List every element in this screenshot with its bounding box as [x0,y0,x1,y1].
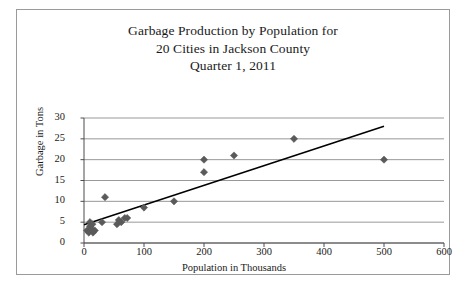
data-point-marker [200,169,207,176]
trend-line [84,126,384,224]
x-axis-title: Population in Thousands [17,262,451,273]
data-point-marker [290,135,297,142]
x-axis-tick-label: 0 [64,246,104,257]
scatter-plot-canvas [17,10,451,276]
x-axis-tick-label: 100 [124,246,164,257]
y-axis-title: Garbage in Tons [34,87,45,197]
chart-figure: Garbage Production by Population for 20 … [16,9,450,275]
data-point-marker [170,198,177,205]
data-point-marker [230,152,237,159]
x-axis-tick-labels: 0100200300400500600 [17,246,451,262]
x-axis-tick-label: 400 [304,246,344,257]
x-axis-tick-label: 500 [364,246,404,257]
y-axis-tick-label: 5 [39,215,65,226]
plot-area: 051015202530 0100200300400500600 [17,10,451,276]
data-point-marker [101,194,108,201]
x-axis-tick-label: 200 [184,246,224,257]
x-axis-tick-label: 600 [424,246,464,257]
data-point-marker [380,156,387,163]
x-axis-tick-label: 300 [244,246,284,257]
data-point-marker [200,156,207,163]
